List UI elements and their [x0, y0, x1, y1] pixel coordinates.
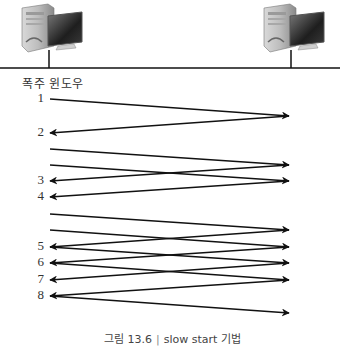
caption-text: slow start 기법 [164, 333, 241, 346]
figure-caption: 그림 13.6|slow start 기법 [0, 330, 345, 346]
window-number-8: 8 [30, 287, 44, 303]
segment-arrows [50, 99, 289, 313]
window-number-4: 4 [30, 188, 44, 204]
ack-arrow [50, 116, 289, 133]
ack-arrow [50, 181, 289, 197]
congestion-window-label: 폭주 윈도우 [22, 74, 84, 91]
ack-arrow [50, 280, 289, 296]
data-segment-arrow [50, 296, 289, 313]
window-number-5: 5 [30, 238, 44, 254]
data-segment-arrow [50, 149, 289, 165]
window-number-1: 1 [30, 90, 44, 106]
sender-computer-icon [22, 4, 82, 68]
receiver-computer-icon [264, 4, 324, 68]
data-segment-arrow [50, 99, 289, 116]
window-number-3: 3 [30, 172, 44, 188]
caption-figure-number: 그림 13.6 [104, 333, 152, 346]
caption-separator: | [156, 333, 160, 346]
data-segment-arrow [50, 214, 289, 230]
window-number-2: 2 [30, 124, 44, 140]
window-number-6: 6 [30, 254, 44, 270]
window-number-7: 7 [30, 271, 44, 287]
